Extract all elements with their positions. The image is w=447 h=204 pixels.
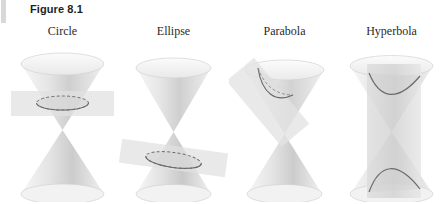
figure-caption: Figure 8.1 (30, 3, 83, 15)
page-edge-mark (1, 0, 6, 23)
panel-label-hyperbola: Hyperbola (336, 24, 447, 39)
lower-nappe-circle (21, 130, 104, 202)
panel-label-parabola: Parabola (229, 24, 340, 39)
panel-circle: Circle (7, 24, 118, 204)
panel-label-circle: Circle (7, 24, 118, 39)
panel-parabola: Parabola (229, 24, 340, 204)
panel-label-ellipse: Ellipse (118, 24, 229, 39)
panel-hyperbola: Hyperbola (336, 24, 447, 204)
cone-diagram-parabola (229, 42, 340, 202)
upper-nappe-ellipse (136, 58, 211, 132)
cone-diagram-circle (7, 42, 118, 202)
cone-diagram-hyperbola (336, 42, 447, 202)
conic-curve-circle (37, 96, 89, 110)
panel-ellipse: Ellipse (118, 24, 229, 204)
cone-diagram-ellipse (118, 42, 229, 202)
figure-page: Figure 8.1 Circle (0, 0, 447, 204)
